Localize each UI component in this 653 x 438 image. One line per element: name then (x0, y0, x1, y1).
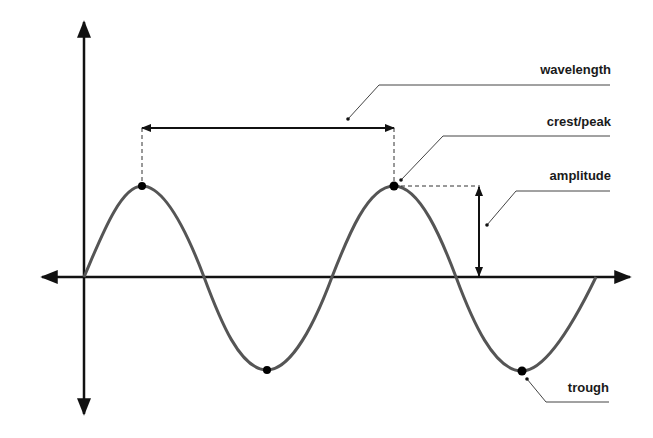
trough-point-1 (263, 366, 271, 374)
crest-label: crest/peak (547, 114, 611, 129)
amplitude-label: amplitude (550, 168, 611, 183)
peak-point-1 (138, 182, 146, 190)
peak-point-2 (390, 182, 399, 191)
amplitude-leader (485, 191, 610, 227)
trough-point-2 (518, 367, 527, 376)
trough-label: trough (568, 380, 609, 395)
sine-wave (84, 186, 596, 371)
wavelength-label: wavelength (540, 62, 611, 77)
